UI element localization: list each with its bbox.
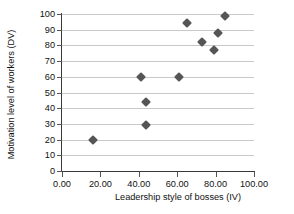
- y-tick-50: [57, 93, 62, 94]
- y-axis-title: Motivation level of workers (DV): [2, 7, 20, 182]
- y-tick-20: [57, 140, 62, 141]
- y-tick-30: [57, 124, 62, 125]
- y-tick-label-80: 80: [15, 40, 55, 50]
- scatter-chart: 0102030405060708090100 0.0020.0040.0060.…: [0, 0, 294, 214]
- y-tick-label-50: 50: [15, 88, 55, 98]
- y-tick-label-70: 70: [15, 56, 55, 66]
- y-tick-label-40: 40: [15, 103, 55, 113]
- gridline-y-50: [62, 93, 254, 94]
- x-tick-0: [62, 172, 63, 177]
- y-tick-60: [57, 77, 62, 78]
- gridline-y-40: [62, 108, 254, 109]
- y-tick-label-30: 30: [15, 119, 55, 129]
- y-tick-label-90: 90: [15, 25, 55, 35]
- x-tick-80: [216, 172, 217, 177]
- gridline-y-10: [62, 155, 254, 156]
- y-tick-70: [57, 61, 62, 62]
- gridline-y-70: [62, 61, 254, 62]
- y-tick-10: [57, 155, 62, 156]
- gridline-y-80: [62, 45, 254, 46]
- y-tick-label-20: 20: [15, 135, 55, 145]
- y-tick-90: [57, 30, 62, 31]
- plot-area: [62, 14, 254, 171]
- x-tick-40: [139, 172, 140, 177]
- x-tick-20: [100, 172, 101, 177]
- y-tick-80: [57, 45, 62, 46]
- x-axis-title: Leadership style of bosses (IV): [62, 192, 294, 202]
- y-tick-label-10: 10: [15, 150, 55, 160]
- y-tick-label-0: 0: [15, 166, 55, 176]
- x-tick-100: [254, 172, 255, 177]
- x-tick-label-100: 100.00: [224, 179, 284, 189]
- x-axis-line: [61, 171, 255, 172]
- x-tick-60: [177, 172, 178, 177]
- y-tick-label-100: 100: [15, 9, 55, 19]
- y-tick-40: [57, 108, 62, 109]
- gridline-y-30: [62, 124, 254, 125]
- gridline-y-60: [62, 77, 254, 78]
- y-tick-label-60: 60: [15, 72, 55, 82]
- gridline-y-90: [62, 30, 254, 31]
- y-tick-100: [57, 14, 62, 15]
